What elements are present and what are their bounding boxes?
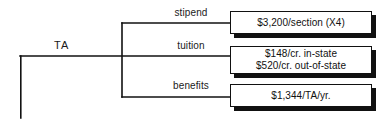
branch-label-stipend: stipend	[152, 8, 230, 18]
value-box-tuition: $148/cr. in-state $520/cr. out-of-state	[230, 46, 372, 74]
value-line: $148/cr. in-state	[265, 48, 337, 60]
value-line: $520/cr. out-of-state	[256, 60, 346, 72]
value-box-stipend: $3,200/section (X4)	[230, 11, 372, 34]
ta-compensation-diagram: TA stipend tuition benefits $3,200/secti…	[0, 0, 384, 126]
value-box-benefits: $1,344/TA/yr.	[230, 84, 372, 107]
branch-label-tuition: tuition	[152, 41, 230, 51]
value-line: $1,344/TA/yr.	[271, 90, 330, 102]
value-line: $3,200/section (X4)	[257, 17, 345, 29]
root-node-label: TA	[54, 40, 70, 51]
branch-label-benefits: benefits	[152, 81, 230, 91]
